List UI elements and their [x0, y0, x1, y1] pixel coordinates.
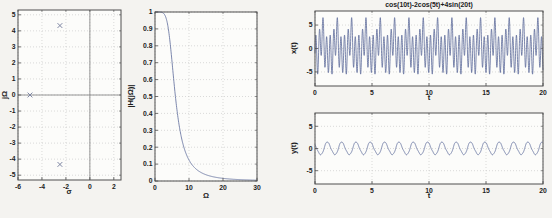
y-tick-label: 0.8	[143, 42, 153, 49]
y-tick-label: -5	[9, 171, 15, 178]
figure-canvas: -6-4-202-5-4-3-2-1012345σjΩ010203000.10.…	[0, 0, 552, 218]
y-tick-label: 0	[309, 145, 313, 152]
y-tick-label: -5	[306, 167, 312, 174]
x-tick-label: 30	[253, 184, 261, 191]
y-tick-label: 4	[12, 27, 16, 34]
y-tick-label: 0.4	[143, 110, 153, 117]
y-tick-label: 5	[12, 11, 16, 18]
x-tick-label: 0	[313, 187, 317, 194]
output-signal-plot: 05101520-505ty(t)	[289, 113, 547, 200]
y-tick-label: 5	[309, 123, 313, 130]
y-tick-label: 0.2	[143, 144, 153, 151]
x-tick-label: 2	[112, 183, 116, 190]
x-tick-label: 0	[88, 183, 92, 190]
y-tick-label: 3	[12, 43, 16, 50]
x-tick-label: 10	[185, 184, 193, 191]
y-tick-label: 1	[149, 8, 153, 15]
x-tick-label: 20	[539, 89, 547, 96]
y-tick-label: 5	[309, 21, 313, 28]
y-axis-label: y(t)	[289, 142, 298, 154]
y-tick-label: 0	[309, 45, 313, 52]
y-tick-label: -1	[9, 107, 15, 114]
y-tick-label: 0	[149, 177, 153, 184]
y-tick-label: 2	[12, 59, 16, 66]
y-axis-label: jΩ	[0, 91, 9, 100]
x-axis-label: Ω	[203, 191, 209, 200]
x-tick-label: 15	[482, 187, 490, 194]
y-tick-label: 0.3	[143, 127, 153, 134]
plots-svg: -6-4-202-5-4-3-2-1012345σjΩ010203000.10.…	[0, 0, 552, 218]
x-tick-label: 15	[482, 89, 490, 96]
x-tick-label: 0	[153, 184, 157, 191]
y-tick-label: 0.5	[143, 93, 153, 100]
y-axis-label: x(t)	[289, 42, 298, 54]
input-signal-plot: 05101520-505tx(t)cos(10t)-2cos(5t)+4sin(…	[289, 1, 547, 102]
y-tick-label: 0.9	[143, 25, 153, 32]
y-tick-label: -5	[306, 68, 312, 75]
y-axis-label: |H(jΩ)|	[126, 85, 135, 108]
magnitude-response-plot: 010203000.10.20.30.40.50.60.70.80.91Ω|H(…	[126, 8, 261, 200]
x-tick-label: 5	[370, 187, 374, 194]
x-tick-label: -4	[39, 183, 45, 190]
y-tick-label: -2	[9, 123, 15, 130]
pole-zero-plot: -6-4-202-5-4-3-2-1012345σjΩ	[0, 10, 121, 196]
x-tick-label: 20	[219, 184, 227, 191]
x-tick-label: 5	[370, 89, 374, 96]
plot-title: cos(10t)-2cos(5t)+4sin(20t)	[385, 1, 473, 9]
y-tick-label: 0.1	[143, 160, 153, 167]
y-tick-label: 0.6	[143, 76, 153, 83]
x-tick-label: 20	[539, 187, 547, 194]
y-tick-label: -3	[9, 139, 15, 146]
y-tick-label: 0	[12, 91, 16, 98]
x-axis-label: σ	[66, 187, 72, 196]
x-tick-label: 0	[313, 89, 317, 96]
x-tick-label: -6	[15, 183, 21, 190]
y-tick-label: -4	[9, 155, 15, 162]
y-tick-label: 1	[12, 75, 16, 82]
y-tick-label: 0.7	[143, 59, 153, 66]
